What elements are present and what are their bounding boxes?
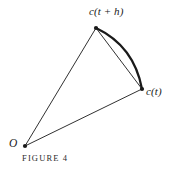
point-dot-c-of-t-plus-h bbox=[94, 26, 98, 30]
chord-cth-to-ct bbox=[96, 28, 142, 89]
figure-caption: FIGURE 4 bbox=[22, 154, 68, 163]
figure-container: c(t + h) c(t) O FIGURE 4 bbox=[0, 0, 179, 171]
label-c-of-t-plus-h: c(t + h) bbox=[89, 6, 124, 17]
label-c-of-t: c(t) bbox=[146, 86, 162, 97]
point-dot-c-of-t bbox=[140, 87, 144, 91]
label-origin: O bbox=[9, 138, 17, 150]
point-dot-origin bbox=[23, 144, 27, 148]
